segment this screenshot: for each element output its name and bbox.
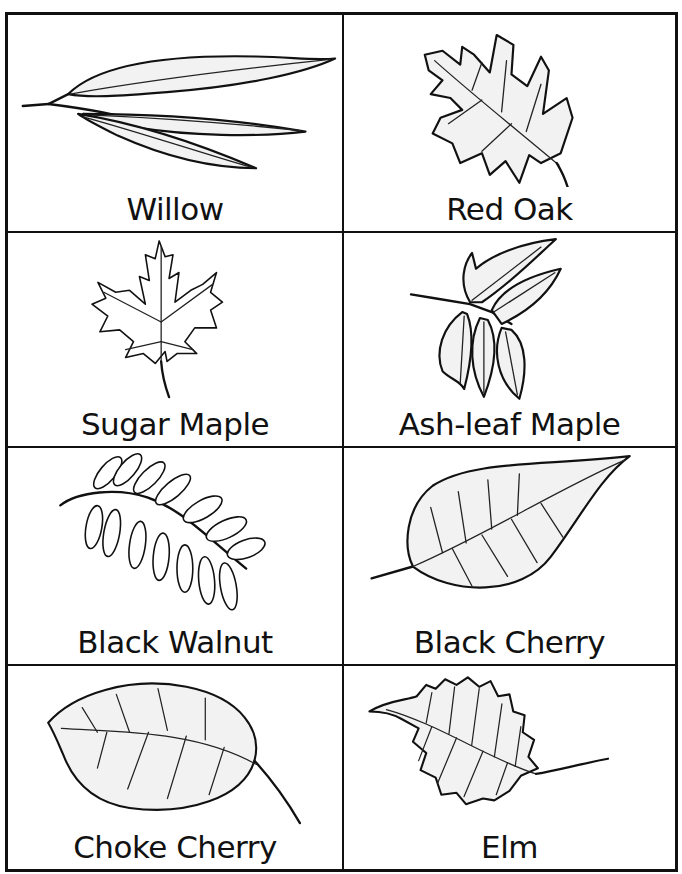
black-cherry-leaf-illustration-icon <box>344 448 675 620</box>
card-label: Black Cherry <box>344 620 675 664</box>
card-willow: Willow <box>8 15 344 233</box>
card-label: Red Oak <box>344 187 675 231</box>
card-black-cherry: Black Cherry <box>344 448 675 666</box>
willow-leaf-illustration-icon <box>8 15 342 187</box>
choke-cherry-leaf-illustration-icon <box>8 666 342 825</box>
card-label: Black Walnut <box>8 620 342 664</box>
ash-leaf-maple-leaf-illustration-icon <box>344 233 675 402</box>
sugar-maple-leaf-illustration-icon <box>8 233 342 402</box>
card-red-oak: Red Oak <box>344 15 675 233</box>
card-choke-cherry: Choke Cherry <box>8 666 344 869</box>
black-walnut-leaf-illustration-icon <box>8 448 342 620</box>
leaf-card-grid: Willow Red Oak <box>5 12 678 872</box>
card-label: Sugar Maple <box>8 402 342 446</box>
card-label: Choke Cherry <box>8 825 342 869</box>
card-label: Willow <box>8 187 342 231</box>
red-oak-leaf-illustration-icon <box>344 15 675 187</box>
card-ash-leaf-maple: Ash-leaf Maple <box>344 233 675 448</box>
card-elm: Elm <box>344 666 675 869</box>
card-label: Ash-leaf Maple <box>344 402 675 446</box>
card-label: Elm <box>344 825 675 869</box>
elm-leaf-illustration-icon <box>344 666 675 825</box>
card-black-walnut: Black Walnut <box>8 448 344 666</box>
card-sugar-maple: Sugar Maple <box>8 233 344 448</box>
